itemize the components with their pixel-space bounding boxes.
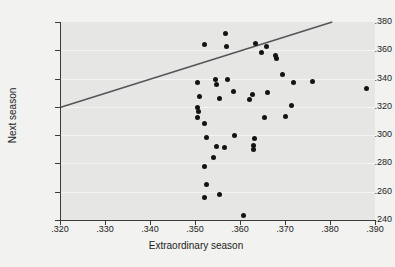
data-point	[264, 44, 269, 49]
regression-line	[60, 22, 375, 220]
y-axis-title: Next season	[7, 66, 18, 166]
y-tick	[55, 192, 60, 193]
x-tick-label: .390	[355, 224, 395, 234]
data-point	[291, 80, 296, 85]
data-point	[259, 50, 264, 55]
data-point	[202, 121, 207, 126]
y-tick-label: .300	[340, 129, 392, 139]
x-tick-label: .330	[85, 224, 125, 234]
data-point	[195, 115, 200, 120]
y-tick-label: .360	[340, 44, 392, 54]
y-tick-label: .320	[340, 101, 392, 111]
plot-area	[60, 22, 375, 220]
x-tick-label: .320	[40, 224, 80, 234]
y-tick-label: .340	[340, 73, 392, 83]
data-point	[253, 41, 258, 46]
y-tick	[55, 79, 60, 80]
y-tick	[55, 163, 60, 164]
data-point	[202, 42, 207, 47]
y-tick-label: .260	[340, 186, 392, 196]
data-point	[231, 89, 236, 94]
data-point	[223, 31, 228, 36]
x-axis-line	[59, 220, 376, 221]
y-tick-label: .380	[340, 16, 392, 26]
y-tick	[55, 107, 60, 108]
data-point	[289, 103, 294, 108]
x-tick-label: .380	[310, 224, 350, 234]
data-point	[202, 164, 207, 169]
x-tick-label: .350	[175, 224, 215, 234]
data-point	[310, 79, 315, 84]
y-tick-label: .280	[340, 157, 392, 167]
data-point	[197, 94, 202, 99]
data-point	[274, 56, 279, 61]
x-tick-label: .360	[220, 224, 260, 234]
y-tick	[55, 22, 60, 23]
x-tick-label: .370	[265, 224, 305, 234]
data-point	[364, 86, 369, 91]
x-tick-label: .340	[130, 224, 170, 234]
y-tick	[55, 50, 60, 51]
y-tick	[55, 135, 60, 136]
y-tick-label: .240	[340, 214, 392, 224]
data-point	[232, 133, 237, 138]
data-point	[283, 114, 288, 119]
y-axis-line	[60, 22, 61, 221]
data-point	[204, 135, 209, 140]
x-axis-title: Extraordinary season	[0, 240, 392, 251]
